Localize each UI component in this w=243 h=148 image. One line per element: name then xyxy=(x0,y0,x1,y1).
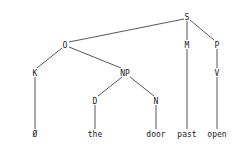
leaf-door: door xyxy=(146,130,165,139)
node-p: P xyxy=(215,41,220,50)
leaf-past: past xyxy=(177,130,196,139)
node-d: D xyxy=(93,97,98,106)
node-s: S xyxy=(185,13,190,22)
syntax-tree: S O M P K NP V D N Ø the door past open xyxy=(0,0,243,148)
edge-o-np xyxy=(69,47,121,68)
node-m: M xyxy=(185,41,190,50)
node-v: V xyxy=(215,69,220,78)
edge-np-n xyxy=(130,77,154,96)
node-n: N xyxy=(154,97,159,106)
leaf-the: the xyxy=(88,130,103,139)
edge-o-k xyxy=(37,48,62,68)
edge-s-o xyxy=(69,19,184,42)
edge-np-d xyxy=(98,77,122,96)
edge-s-p xyxy=(190,20,214,40)
leaf-open: open xyxy=(207,130,226,139)
node-np: NP xyxy=(120,69,130,78)
node-o: O xyxy=(63,41,68,50)
leaf-null: Ø xyxy=(33,129,38,139)
node-k: K xyxy=(33,69,38,78)
